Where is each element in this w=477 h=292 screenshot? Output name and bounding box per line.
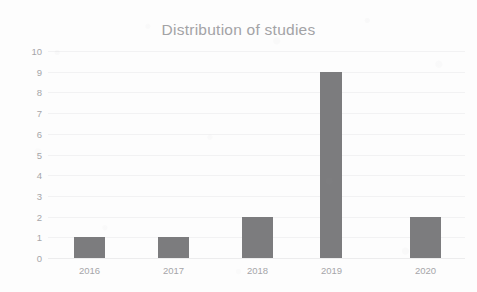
y-tick-label: 3 — [16, 192, 42, 202]
gridline — [48, 175, 465, 176]
y-tick-label: 5 — [16, 151, 42, 161]
gridline — [48, 155, 465, 156]
y-tick-label: 0 — [16, 254, 42, 264]
y-axis: 10 9 8 7 6 5 4 3 2 1 0 — [12, 51, 42, 258]
bar-2019 — [320, 72, 342, 258]
chart-title: Distribution of studies — [0, 21, 477, 39]
gridline — [48, 51, 465, 52]
gridline — [48, 113, 465, 114]
bar-chart-figure: Distribution of studies 10 9 8 7 6 5 4 3… — [0, 0, 477, 292]
x-axis-baseline — [48, 258, 465, 259]
plot-area — [48, 51, 465, 258]
x-tick-label-2019: 2019 — [306, 266, 357, 276]
y-tick-label: 4 — [16, 171, 42, 181]
x-tick-label-2018: 2018 — [232, 266, 283, 276]
y-tick-label: 7 — [16, 109, 42, 119]
x-tick-label-2020: 2020 — [400, 266, 451, 276]
y-tick-label: 8 — [16, 88, 42, 98]
bar-2016 — [74, 237, 105, 258]
x-tick-label-2017: 2017 — [148, 266, 199, 276]
gridline — [48, 72, 465, 73]
bar-2020 — [410, 217, 441, 258]
y-tick-label: 10 — [16, 47, 42, 57]
y-tick-label: 9 — [16, 68, 42, 78]
y-tick-label: 2 — [16, 213, 42, 223]
y-tick-label: 6 — [16, 130, 42, 140]
gridline — [48, 134, 465, 135]
bar-2017 — [158, 237, 189, 258]
x-tick-label-2016: 2016 — [64, 266, 115, 276]
bar-2018 — [242, 217, 273, 258]
gridline — [48, 92, 465, 93]
x-axis: 2016 2017 2018 2019 2020 — [48, 266, 465, 282]
y-tick-label: 1 — [16, 233, 42, 243]
gridline — [48, 196, 465, 197]
